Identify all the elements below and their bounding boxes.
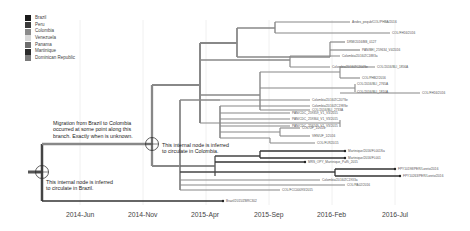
leaf-label: COL/PA02/2016 (347, 183, 370, 187)
axis-tick-label: 2014-Nov (128, 211, 157, 218)
leaf-label: Colombia/2016/ZC204Se (332, 65, 368, 69)
annotation-line: to circulate in Colombia. (162, 148, 229, 154)
axis-tick-label: 2014-Jun (66, 211, 94, 218)
leaf-label: Colombia/2016/ZC207Se (312, 98, 348, 102)
leaf-label: Andes_pequb/COL/PHBA/2016 (352, 20, 397, 24)
leaf-label: Colombia/2016/ZC198Se (312, 104, 348, 108)
leaf-label: MRS_OPY_Martinique_PaRi_2015 (308, 160, 358, 164)
leaf-label: Colombia/2016/ZC1933a (322, 178, 358, 182)
annotation-line: to circulate in Brazil. (46, 185, 113, 191)
leaf-label: COL/FH16/2016 (422, 91, 445, 95)
leaf-label: Martinique/2016/FL001Sa (348, 149, 385, 153)
leaf-label: VEN/UF_1/2016 (312, 134, 335, 138)
brazil-node-annotation: This internal node is inferred to circul… (46, 179, 113, 192)
annotation-line: branch. Exactly when is unknown. (53, 133, 133, 139)
leaf-label: PAN/BEI_259634_V4/2016 (362, 48, 401, 52)
leaf-label: Brazil/2015/ZBRC302 (226, 199, 257, 203)
leaf-label: COL/UF_1/2016 (302, 126, 325, 130)
phylogenetic-tree: Andes_pequb/COL/PHBA/2016 COL/FH16/2016 … (0, 0, 470, 231)
leaf-label: Colombia/2016/ZC1883a (342, 54, 378, 58)
leaf-label: COL/FLR/2015 (317, 141, 339, 145)
leaf-label: PAN/CDC_259359_V1_V3/2015 (292, 111, 338, 115)
leaf-label: PAN/CDC_259364_V1_V3/2015 (292, 117, 338, 121)
leaf-label: DRM/2016/BB_0127 (347, 40, 376, 44)
axis-tick-label: 2016-Feb (317, 211, 346, 218)
migration-annotation: Migration from Brazil to Colombia occurr… (53, 120, 133, 139)
leaf-label: COL/PHB2/2016 (362, 76, 386, 80)
leaf-label: COL/FCC00093/2015 (282, 188, 313, 192)
leaf-label: FPY10198/PER/Loreto/2016 (398, 167, 439, 171)
leaf-label: FPY10263/PER/Loreto/2016 (403, 174, 444, 178)
leaf-label: COL/2016/BLI_2765A (357, 82, 389, 86)
annotation-line: occurred at some point along this (53, 126, 133, 132)
axis-tick-label: 2015-Apr (191, 211, 219, 218)
axis-tick-label: 2015-Sep (254, 211, 283, 218)
leaf-label: COL/2016/BLI_1810A (357, 90, 389, 94)
leaf-label: COL/2016/BLI_1856A (377, 65, 409, 69)
axis-tick-label: 2016-Jul (382, 211, 408, 218)
colombia-node-annotation: This internal node is inferred to circul… (162, 142, 229, 155)
leaf-label: COL/FH16/2016 (392, 31, 415, 35)
